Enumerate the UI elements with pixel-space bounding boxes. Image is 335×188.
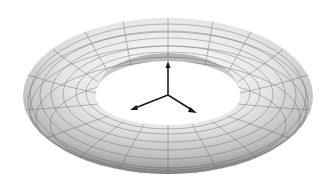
z-axis-arrowhead-icon xyxy=(166,61,171,68)
torus-diagram xyxy=(0,0,335,188)
torus-figure xyxy=(0,0,335,188)
